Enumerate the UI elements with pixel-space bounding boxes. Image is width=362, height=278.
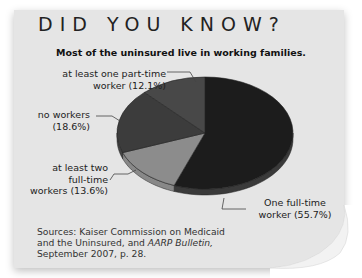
- label-two-ft-line3: workers (13.6%): [20, 185, 108, 197]
- sources-note: Sources: Kaiser Commission on Medicaid a…: [37, 227, 225, 259]
- label-one-ft-line1: One full-time: [245, 197, 345, 209]
- label-no-workers-line2: (18.6%): [30, 121, 90, 133]
- label-two-ft-line2: full-time: [20, 174, 108, 186]
- label-part-time: at least one part-time worker (12.1%): [36, 68, 166, 91]
- leader-two-full-time: [110, 170, 136, 180]
- sources-line3: September 2007, p. 28.: [37, 249, 225, 260]
- sources-line2-text: and the Uninsured, and: [37, 237, 148, 248]
- leader-no-workers: [96, 116, 120, 121]
- leader-one-full-time: [222, 198, 246, 209]
- label-two-ft-line1: at least two: [20, 162, 108, 174]
- label-no-workers-line1: no workers: [30, 109, 90, 121]
- label-two-full-time: at least two full-time workers (13.6%): [20, 162, 108, 197]
- label-part-time-line2: worker (12.1%): [36, 80, 166, 92]
- sources-publication: AARP Bulletin,: [148, 237, 213, 248]
- label-no-workers: no workers (18.6%): [30, 109, 90, 132]
- label-one-full-time: One full-time worker (55.7%): [245, 197, 345, 220]
- sources-line2: and the Uninsured, and AARP Bulletin,: [37, 238, 225, 249]
- label-part-time-line1: at least one part-time: [36, 68, 166, 80]
- label-one-ft-line2: worker (55.7%): [245, 209, 345, 221]
